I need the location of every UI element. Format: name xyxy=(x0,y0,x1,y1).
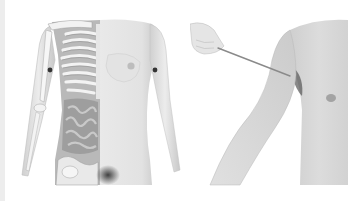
nipple xyxy=(326,94,336,102)
chest xyxy=(290,20,348,185)
arm-pointer-photo-panel xyxy=(190,0,353,201)
arm xyxy=(210,30,296,185)
marker-dot-right xyxy=(153,68,158,73)
marker-dot-left xyxy=(48,68,53,73)
arm-pointer-photo xyxy=(190,0,353,201)
anatomy-illustration-panel xyxy=(0,0,190,201)
anatomy-illustration xyxy=(0,0,190,201)
hand xyxy=(190,23,224,54)
left-arm-skeleton xyxy=(22,26,55,176)
skeleton-torso xyxy=(48,20,100,185)
nipple xyxy=(127,62,134,69)
right-arm-skin xyxy=(150,24,180,172)
